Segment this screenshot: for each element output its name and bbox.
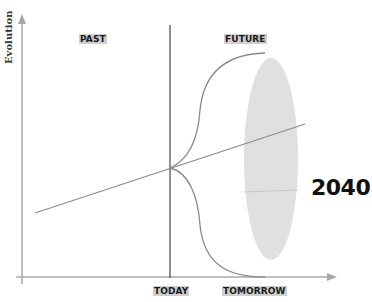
future-uncertainty-ellipse: [244, 58, 298, 260]
evolution-diagram: [0, 0, 372, 302]
past-label: PAST: [79, 34, 107, 44]
y-axis-label: Evolution: [3, 10, 14, 64]
x-axis-arrow-icon: [327, 273, 337, 281]
tomorrow-label: TOMORROW: [222, 286, 287, 296]
horizon-year-label: 2040: [311, 175, 370, 200]
y-axis-arrow-icon: [18, 14, 26, 24]
future-label: FUTURE: [224, 34, 267, 44]
today-label: TODAY: [153, 286, 189, 296]
